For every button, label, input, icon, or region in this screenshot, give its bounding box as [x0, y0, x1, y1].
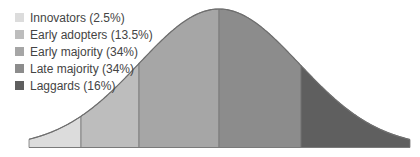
legend-item-late-majority: Late majority (34%): [15, 60, 153, 77]
legend-item-laggards: Laggards (16%): [15, 77, 153, 94]
legend-label: Laggards (16%): [30, 79, 115, 93]
swatch-laggards: [15, 81, 24, 90]
legend-item-early-adopters: Early adopters (13.5%): [15, 26, 153, 43]
segment-late-majority: [219, 9, 301, 148]
legend-label: Early adopters (13.5%): [30, 28, 153, 42]
legend-label: Late majority (34%): [30, 62, 134, 76]
legend: Innovators (2.5%) Early adopters (13.5%)…: [15, 9, 153, 94]
swatch-late-majority: [15, 64, 24, 73]
legend-item-early-majority: Early majority (34%): [15, 43, 153, 60]
legend-label: Innovators (2.5%): [30, 11, 125, 25]
swatch-innovators: [15, 13, 24, 22]
swatch-early-majority: [15, 47, 24, 56]
swatch-early-adopters: [15, 30, 24, 39]
legend-label: Early majority (34%): [30, 45, 138, 59]
legend-item-innovators: Innovators (2.5%): [15, 9, 153, 26]
